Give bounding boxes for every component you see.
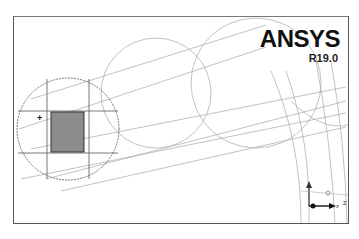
triad-x-label: Z — [343, 200, 347, 206]
svg-text:+: + — [37, 113, 42, 123]
ansys-logo: ANSYS R19.0 — [260, 27, 340, 65]
triad-origin-label: z — [336, 203, 339, 209]
axis-triad — [301, 181, 348, 209]
version-text: R19.0 — [260, 51, 338, 65]
graphics-viewport[interactable]: + ANSYS R19.0 z Z — [13, 16, 349, 224]
brand-text: ANSYS — [260, 27, 340, 51]
section-circle: + — [17, 78, 119, 180]
